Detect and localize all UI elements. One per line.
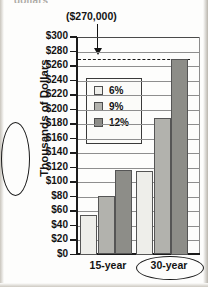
y-axis-tick: [70, 254, 77, 256]
bar-30-year-12%: [171, 59, 188, 255]
y-axis-tick: [70, 51, 77, 53]
legend-swatch-icon: [94, 86, 103, 95]
chart-page: dollars ($270,000) $300$280$260$240$220$…: [0, 0, 208, 287]
y-axis-tick: [70, 109, 77, 111]
callout-label: ($270,000): [66, 10, 117, 22]
bar-30-year-9%: [154, 118, 171, 254]
y-axis-tick: [70, 36, 77, 38]
page-edge-left: [0, 0, 4, 287]
y-axis-tick-label: $40: [24, 219, 68, 230]
y-axis-tick: [70, 239, 77, 241]
y-axis-tick: [70, 210, 77, 212]
y-axis-tick-label: $300: [24, 30, 68, 41]
bar-15-year-12%: [115, 170, 132, 255]
legend-item-label: 12%: [109, 117, 129, 128]
legend-item-12pct: 12%: [94, 117, 141, 128]
y-axis-tick: [70, 167, 77, 169]
page-edge-right: [203, 0, 208, 287]
y-axis-title: Thousands of Dollars: [38, 43, 50, 193]
y-axis-tick: [70, 65, 77, 67]
bar-30-year-6%: [136, 171, 153, 254]
y-axis-tick: [70, 80, 77, 82]
y-axis-tick: [70, 196, 77, 198]
y-axis-tick: [70, 181, 77, 183]
y-axis-tick-label: $0: [24, 248, 68, 259]
bar-15-year-9%: [98, 196, 115, 255]
y-axis-tick-label: $20: [24, 233, 68, 244]
legend-swatch-icon: [94, 118, 103, 127]
y-axis-tick: [70, 138, 77, 140]
x-axis-label-30-year: 30-year: [139, 259, 199, 271]
x-axis-label-15-year: 15-year: [78, 259, 138, 271]
bar-15-year-6%: [80, 215, 97, 255]
y-axis-tick: [70, 94, 77, 96]
legend: 6%9%12%: [86, 78, 142, 144]
y-axis-tick: [70, 225, 77, 227]
y-axis-tick: [70, 152, 77, 154]
y-axis-tick: [70, 123, 77, 125]
gridline: [78, 52, 200, 53]
y-axis-tick-label: $60: [24, 204, 68, 215]
